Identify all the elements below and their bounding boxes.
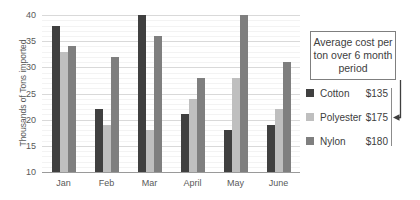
legend-label-cotton: Cotton — [320, 88, 366, 99]
bar-polyester-april — [189, 99, 197, 172]
gridline-18 — [42, 130, 300, 131]
arrowhead-icon — [393, 114, 400, 121]
legend: Cotton$135Polyester$175Nylon$180 — [306, 81, 388, 153]
gridline-40 — [42, 15, 300, 16]
legend-item-polyester: Polyester$175 — [306, 105, 388, 129]
x-label-jan: Jan — [42, 178, 85, 189]
gridline-36 — [42, 36, 300, 37]
gridline-13 — [42, 156, 300, 157]
annotation-box: Average cost per ton over 6 month period — [310, 31, 396, 80]
legend-bracket-line — [391, 88, 392, 146]
gridline-27 — [42, 83, 300, 84]
x-label-june: June — [257, 178, 300, 189]
legend-swatch-nylon-icon — [306, 137, 314, 145]
gridline-21 — [42, 114, 300, 115]
bar-polyester-feb — [103, 125, 111, 172]
chart-canvas: Thousands of Tons imported 4035302520151… — [0, 0, 420, 200]
y-tick-15: 15 — [6, 141, 36, 151]
gridline-38 — [42, 26, 300, 27]
gridline-39 — [42, 20, 300, 21]
y-tick-40: 40 — [6, 10, 36, 20]
x-label-mar: Mar — [128, 178, 171, 189]
bar-nylon-jan — [68, 46, 76, 172]
gridline-29 — [42, 73, 300, 74]
bar-polyester-june — [275, 109, 283, 172]
gridline-12 — [42, 162, 300, 163]
bar-cotton-june — [267, 125, 275, 172]
bar-nylon-june — [283, 62, 291, 172]
bar-cotton-mar — [138, 15, 146, 172]
legend-label-polyester: Polyester — [320, 112, 366, 123]
gridline-16 — [42, 141, 300, 142]
bar-nylon-mar — [154, 36, 162, 172]
x-label-april: April — [171, 178, 214, 189]
bar-nylon-feb — [111, 57, 119, 172]
gridline-32 — [42, 57, 300, 58]
bar-polyester-jan — [60, 52, 68, 172]
legend-swatch-cotton-icon — [306, 89, 314, 97]
annotation-text: Average cost per ton over 6 month period — [313, 36, 393, 75]
legend-swatch-polyester-icon — [306, 113, 314, 121]
y-tick-25: 25 — [6, 89, 36, 99]
bar-cotton-april — [181, 114, 189, 172]
gridline-19 — [42, 125, 300, 126]
bar-nylon-april — [197, 78, 205, 172]
bar-cotton-feb — [95, 109, 103, 172]
bar-polyester-mar — [146, 130, 154, 172]
y-tick-30: 30 — [6, 62, 36, 72]
gridline-28 — [42, 78, 300, 79]
legend-item-cotton: Cotton$135 — [306, 81, 388, 105]
gridline-35 — [42, 41, 300, 42]
gridline-25 — [42, 94, 300, 95]
gridline-17 — [42, 135, 300, 136]
bar-cotton-jan — [52, 26, 60, 173]
legend-item-nylon: Nylon$180 — [306, 129, 388, 153]
legend-price-polyester: $175 — [366, 112, 388, 123]
gridline-15 — [42, 146, 300, 147]
gridline-11 — [42, 167, 300, 168]
y-tick-35: 35 — [6, 36, 36, 46]
gridline-31 — [42, 62, 300, 63]
gridline-10 — [42, 172, 300, 173]
legend-price-cotton: $135 — [366, 88, 388, 99]
gridline-33 — [42, 52, 300, 53]
bar-cotton-may — [224, 130, 232, 172]
gridline-14 — [42, 151, 300, 152]
gridline-30 — [42, 67, 300, 68]
bar-nylon-may — [240, 15, 248, 172]
gridline-24 — [42, 99, 300, 100]
x-label-feb: Feb — [85, 178, 128, 189]
gridline-34 — [42, 46, 300, 47]
gridline-26 — [42, 88, 300, 89]
gridline-20 — [42, 120, 300, 121]
y-tick-10: 10 — [6, 167, 36, 177]
legend-price-nylon: $180 — [366, 136, 388, 147]
y-tick-20: 20 — [6, 115, 36, 125]
gridline-37 — [42, 31, 300, 32]
gridline-23 — [42, 104, 300, 105]
plot-area — [42, 15, 300, 172]
gridline-22 — [42, 109, 300, 110]
x-label-may: May — [214, 178, 257, 189]
bar-polyester-may — [232, 78, 240, 172]
legend-label-nylon: Nylon — [320, 136, 366, 147]
